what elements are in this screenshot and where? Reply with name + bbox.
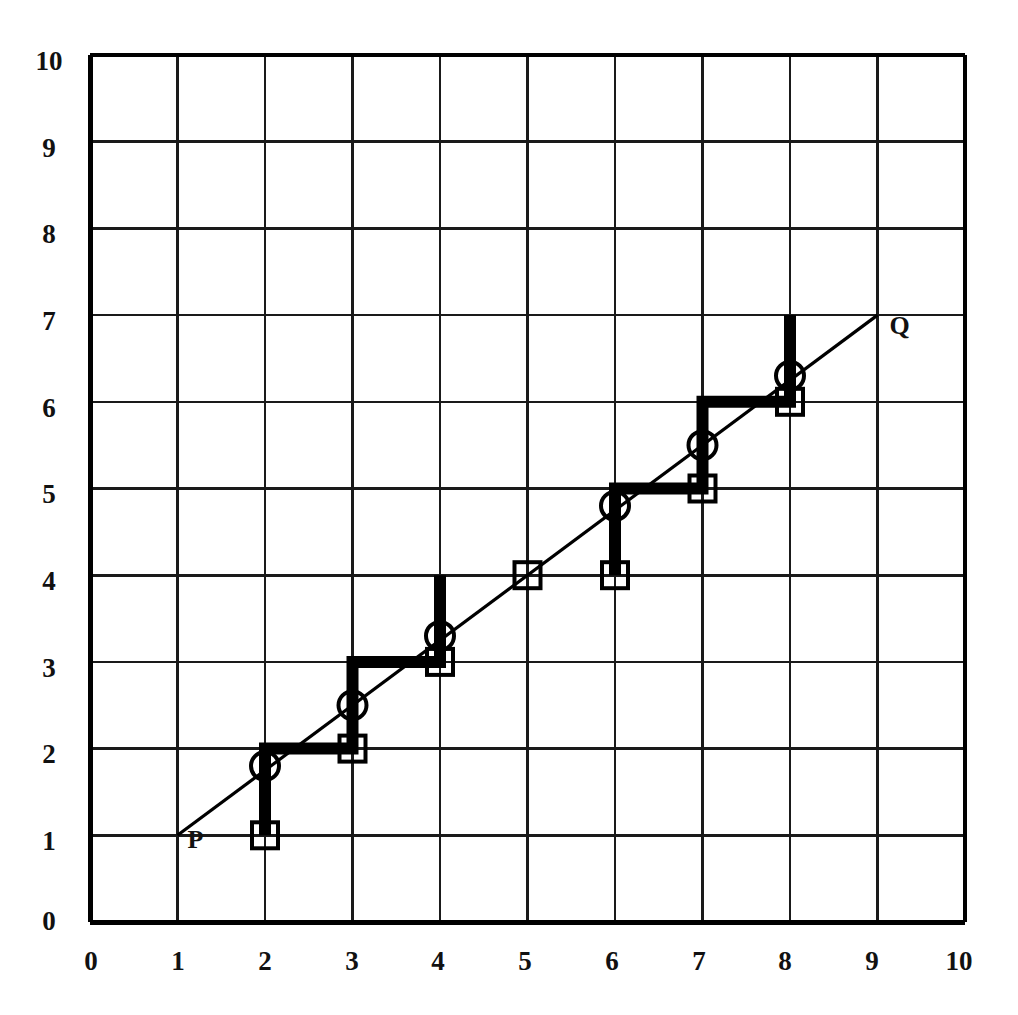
y-tick-label-6: 6: [26, 395, 72, 422]
point-label-q: Q: [890, 313, 910, 339]
y-tick-label-9: 9: [26, 135, 72, 162]
x-tick-label-2: 2: [242, 948, 288, 975]
plot-canvas: [0, 0, 1018, 1015]
point-label-p: P: [188, 827, 204, 853]
y-tick-label-10: 10: [26, 48, 72, 75]
y-tick-label-8: 8: [26, 221, 72, 248]
y-tick-label-5: 5: [26, 481, 72, 508]
x-tick-label-7: 7: [676, 948, 722, 975]
y-tick-label-1: 1: [26, 828, 72, 855]
x-tick-label-9: 9: [849, 948, 895, 975]
y-tick-label-2: 2: [26, 741, 72, 768]
x-tick-label-10: 10: [936, 948, 982, 975]
grid-lines: [90, 55, 965, 922]
x-tick-label-3: 3: [329, 948, 375, 975]
y-tick-label-0: 0: [26, 908, 72, 935]
x-tick-label-6: 6: [589, 948, 635, 975]
x-tick-label-8: 8: [762, 948, 808, 975]
staircase-grid-figure: 10 9 8 7 6 5 4 3 2 1 0 0 1 2 3 4 5 6 7 8…: [0, 0, 1018, 1015]
x-tick-label-4: 4: [415, 948, 461, 975]
y-tick-label-3: 3: [26, 655, 72, 682]
x-tick-label-5: 5: [502, 948, 548, 975]
y-tick-label-7: 7: [26, 308, 72, 335]
y-tick-label-4: 4: [26, 568, 72, 595]
x-tick-label-1: 1: [155, 948, 201, 975]
x-tick-label-0: 0: [68, 948, 114, 975]
